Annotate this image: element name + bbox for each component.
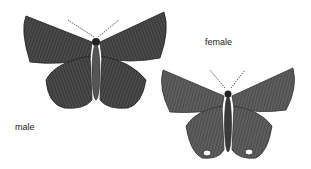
male-butterfly (24, 12, 167, 108)
male-label: male (15, 122, 35, 132)
butterfly-illustration (0, 0, 311, 169)
female-butterfly (162, 68, 295, 158)
female-label: female (205, 37, 232, 47)
